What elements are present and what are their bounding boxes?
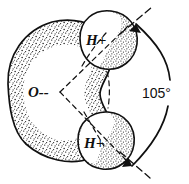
hydrogen-lower-label: H+	[83, 135, 104, 151]
molecule-drawing: O-- H+ H+ 105°	[0, 0, 189, 184]
water-molecule-figure: O-- H+ H+ 105°	[0, 0, 189, 184]
bond-angle-label: 105°	[142, 85, 171, 101]
angle-arc-upper	[136, 24, 170, 80]
angle-arc-lower	[132, 106, 168, 166]
hydrogen-upper-label: H+	[85, 32, 106, 48]
oxygen-label: O--	[28, 84, 49, 100]
